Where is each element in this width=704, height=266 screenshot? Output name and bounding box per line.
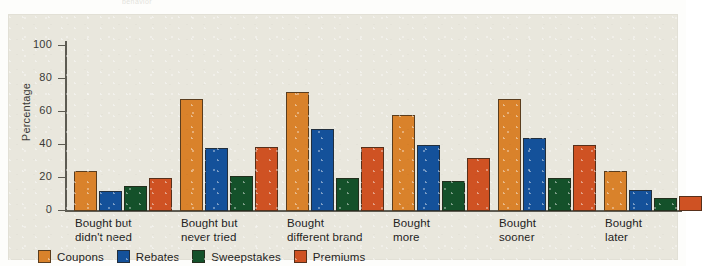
legend-swatch-icon [294, 250, 307, 263]
legend-item: Sweepstakes [192, 250, 281, 263]
bar-group [392, 41, 492, 211]
bar [74, 171, 97, 211]
legend-label: Sweepstakes [211, 251, 281, 263]
bar-group [180, 41, 280, 211]
x-axis-category-label: Bought sooner [499, 217, 536, 244]
bar [392, 115, 415, 211]
legend-item: Premiums [294, 250, 366, 263]
bar [361, 147, 384, 211]
caption-fragment: behavior [122, 0, 192, 6]
bar [467, 158, 490, 211]
bar [654, 198, 677, 211]
bar [149, 178, 172, 211]
bar [311, 129, 334, 212]
bar [230, 176, 253, 211]
bar-group [74, 41, 174, 211]
bar [604, 171, 627, 211]
bar [205, 148, 228, 211]
bar-group [498, 41, 598, 211]
chart-legend: CouponsRebatesSweepstakesPremiums [38, 250, 365, 263]
legend-item: Rebates [117, 250, 180, 263]
bar [124, 186, 147, 211]
legend-label: Coupons [57, 251, 104, 263]
legend-swatch-icon [38, 250, 51, 263]
bar [286, 92, 309, 211]
bar-group [604, 41, 704, 211]
bar [180, 99, 203, 211]
x-axis-category-label: Bought more [393, 217, 430, 244]
bar [442, 181, 465, 211]
legend-label: Rebates [136, 251, 180, 263]
legend-swatch-icon [192, 250, 205, 263]
bar [679, 196, 702, 211]
bar-group [286, 41, 386, 211]
bar [336, 178, 359, 211]
bar [523, 138, 546, 211]
legend-item: Coupons [38, 250, 104, 263]
x-axis-category-label: Bought later [605, 217, 642, 244]
x-axis-category-label: Bought but never tried [181, 217, 238, 244]
legend-swatch-icon [117, 250, 130, 263]
x-axis-category-label: Bought but didn't need [75, 217, 132, 244]
bar [255, 147, 278, 211]
bar [99, 191, 122, 211]
x-axis-category-label: Bought different brand [287, 217, 362, 244]
legend-label: Premiums [313, 251, 366, 263]
bar [417, 145, 440, 211]
plot-panel: Percentage 020406080100 Bought but didn'… [8, 14, 678, 260]
bar [498, 99, 521, 211]
bar [629, 190, 652, 211]
bar [573, 145, 596, 211]
bar [548, 178, 571, 211]
